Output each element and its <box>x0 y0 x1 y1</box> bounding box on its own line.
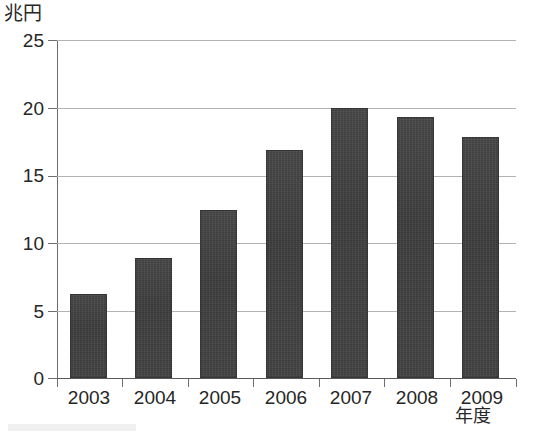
y-tick-mark-25 <box>48 40 57 41</box>
gridline-25 <box>57 40 516 41</box>
scan-artifact <box>8 424 136 431</box>
y-tick-label-15: 15 <box>4 166 44 185</box>
bar-2003 <box>70 294 107 378</box>
gridline-0-baseline <box>57 378 516 379</box>
x-tick-label-2006: 2006 <box>251 386 321 410</box>
x-tick-label-2005: 2005 <box>185 386 255 410</box>
x-tick-label-2007: 2007 <box>316 386 386 410</box>
y-tick-mark-15 <box>48 176 57 177</box>
gridline-20 <box>57 108 516 109</box>
y-tick-mark-20 <box>48 108 57 109</box>
y-tick-label-0: 0 <box>4 369 44 388</box>
bar-2004 <box>135 258 172 378</box>
y-tick-label-5: 5 <box>4 302 44 321</box>
y-tick-label-10: 10 <box>4 234 44 253</box>
y-tick-mark-10 <box>48 243 57 244</box>
bar-2005 <box>200 210 237 378</box>
bar-2006 <box>266 150 303 378</box>
y-axis-tick-labels: 25 20 15 10 5 0 <box>0 0 44 432</box>
x-tick-label-2004: 2004 <box>120 386 190 410</box>
x-tick-label-2003: 2003 <box>54 386 124 410</box>
bar-2008 <box>397 117 434 378</box>
bar-2007 <box>331 108 368 378</box>
bar-2009 <box>462 137 499 378</box>
y-tick-mark-0 <box>48 378 57 379</box>
x-tick-label-2008: 2008 <box>382 386 452 410</box>
y-tick-label-20: 20 <box>4 99 44 118</box>
y-tick-label-25: 25 <box>4 31 44 50</box>
bar-chart: 兆円 25 20 15 10 5 0 2003 2004 2005 2006 <box>0 0 533 432</box>
plot-area <box>57 40 516 378</box>
x-axis-caption: 年度 <box>455 405 525 427</box>
y-tick-mark-5 <box>48 311 57 312</box>
